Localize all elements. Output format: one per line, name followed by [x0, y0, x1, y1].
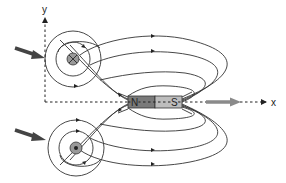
current-out-of-page-icon: [74, 146, 78, 150]
x-axis-label: x: [271, 97, 276, 108]
magnetic-field-diagram: y x N S: [0, 0, 286, 183]
bar-magnet: N S: [128, 96, 182, 108]
motion-arrow-icon: [230, 98, 241, 107]
force-arrow-lower-icon: [31, 132, 46, 141]
lower-wire: [70, 118, 82, 154]
field-arrow-icon: [151, 49, 155, 53]
force-arrows: [15, 48, 46, 141]
y-axis-label: y: [42, 4, 47, 15]
upper-wire: [67, 53, 79, 88]
north-label: N: [131, 97, 138, 108]
motion-arrow: [206, 98, 241, 107]
field-arrow-icon: [151, 148, 155, 152]
south-label: S: [171, 97, 178, 108]
force-arrow-upper-icon: [31, 50, 45, 59]
field-arrow-icon: [151, 34, 155, 38]
